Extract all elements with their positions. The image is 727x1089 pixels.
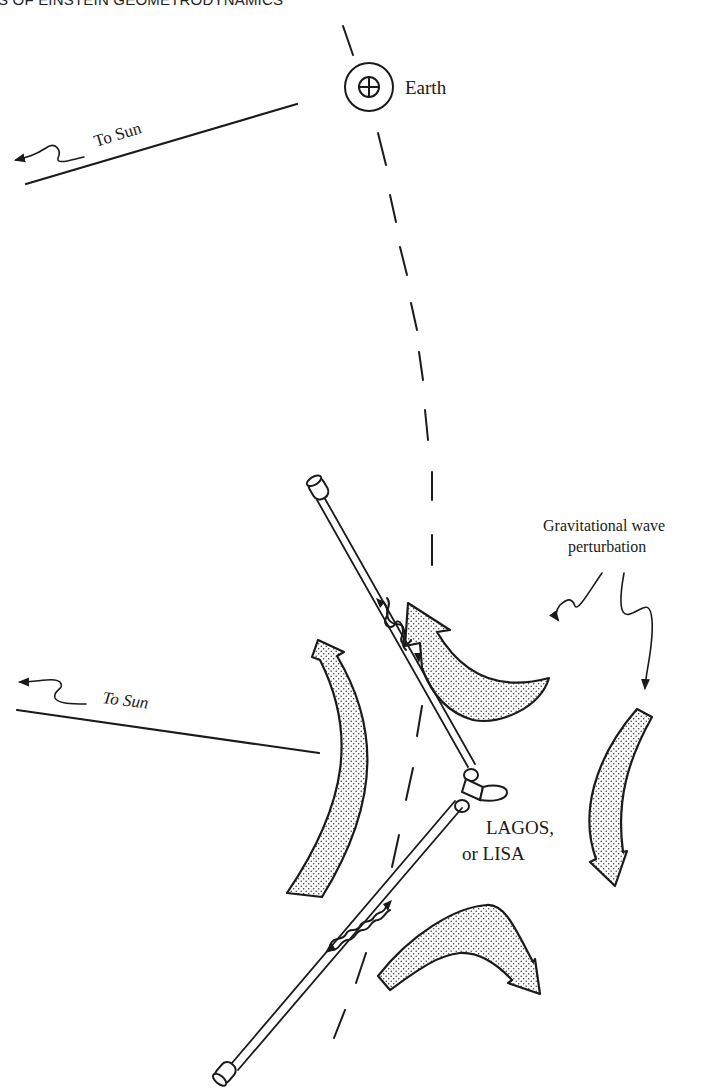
earth-label: Earth [405, 77, 447, 98]
wave-arrow-left [287, 640, 367, 897]
detector-label-line2: or LISA [462, 843, 525, 864]
wave-arrow-right [589, 709, 652, 886]
earth-symbol-icon [345, 63, 393, 111]
detector-arm-upper [305, 473, 475, 767]
wave-annotation-line2: perturbation [568, 538, 646, 556]
to-sun-upper-label: To Sun [92, 118, 144, 150]
sun-direction-upper: To Sun [16, 104, 297, 184]
wave-annotation-line1: Gravitational wave [543, 517, 665, 534]
central-spacecraft [455, 769, 507, 812]
annotation-pointers [556, 573, 652, 688]
detector-label-line1: LAGOS, [486, 817, 554, 838]
to-sun-lower-label: To Sun [102, 688, 150, 712]
sun-direction-lower: To Sun [17, 680, 319, 753]
gravitational-wave-detector-diagram: Earth To Sun To Sun Gravitational wave p… [0, 0, 727, 1089]
wave-arrow-upper-left [405, 603, 549, 721]
wave-arrow-bottom [378, 905, 540, 994]
